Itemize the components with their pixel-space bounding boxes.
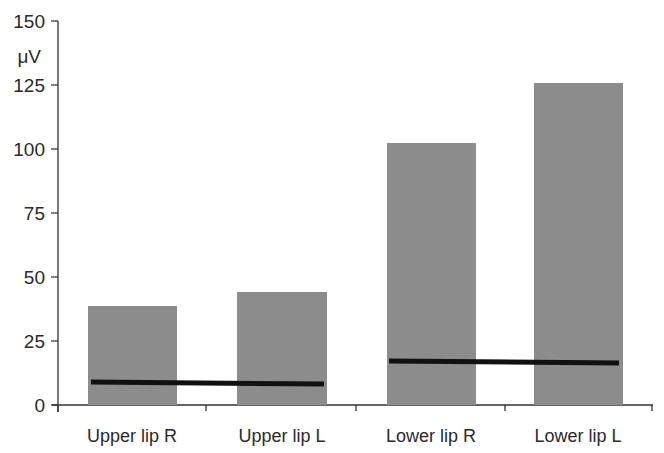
y-ticks	[51, 21, 58, 405]
category-label: Lower lip R	[386, 426, 476, 446]
bar-lower-lip-r	[387, 143, 476, 405]
y-tick-label: 25	[24, 331, 45, 352]
upper-lip-reference-line	[91, 382, 324, 384]
y-axis-unit-label: μV	[17, 46, 41, 67]
bar-lower-lip-l	[534, 83, 623, 405]
x-category-labels: Upper lip R Upper lip L Lower lip R Lowe…	[87, 426, 622, 446]
y-tick-label: 50	[24, 267, 45, 288]
y-tick-label: 125	[13, 75, 45, 96]
category-label: Lower lip L	[534, 426, 621, 446]
y-tick-labels: 0 25 50 75 100 125 150	[13, 11, 45, 416]
bar-chart: 0 25 50 75 100 125 150 μV Upper lip R Up…	[0, 0, 664, 453]
bars	[88, 83, 623, 405]
lower-lip-reference-line	[389, 361, 619, 363]
bar-upper-lip-r	[88, 306, 177, 405]
category-label: Upper lip R	[87, 426, 177, 446]
category-label: Upper lip L	[238, 426, 325, 446]
y-tick-label: 0	[34, 395, 45, 416]
y-tick-label: 75	[24, 203, 45, 224]
bar-upper-lip-l	[237, 292, 327, 405]
x-ticks	[58, 405, 652, 412]
y-tick-label: 100	[13, 139, 45, 160]
y-tick-label: 150	[13, 11, 45, 32]
